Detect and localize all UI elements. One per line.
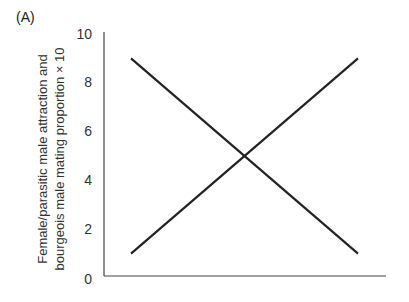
plot-area bbox=[0, 0, 409, 302]
